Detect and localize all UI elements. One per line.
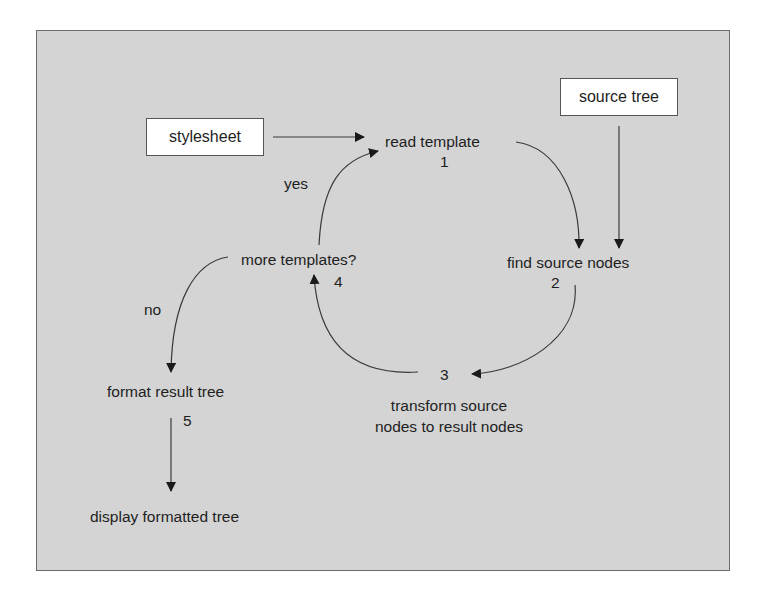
step-transform-line1: transform source	[360, 397, 538, 415]
step-4-number: 4	[334, 273, 343, 291]
source-tree-box: source tree	[560, 78, 678, 116]
diagram-canvas: stylesheet source tree read template 1 f…	[0, 0, 766, 603]
step-read-template-label: read template	[385, 133, 480, 151]
output-display-formatted-tree: display formatted tree	[90, 508, 239, 526]
stylesheet-box: stylesheet	[146, 118, 264, 156]
step-2-number: 2	[551, 274, 560, 292]
edge-label-no: no	[144, 301, 161, 319]
edge-label-yes: yes	[284, 175, 308, 193]
step-transform-line2: nodes to result nodes	[360, 418, 538, 436]
step-5-number: 5	[183, 412, 192, 430]
step-find-source-nodes-label: find source nodes	[507, 254, 629, 272]
step-format-result-tree-label: format result tree	[107, 383, 224, 401]
step-more-templates-label: more templates?	[241, 251, 356, 269]
step-1-number: 1	[440, 153, 449, 171]
step-3-number: 3	[440, 366, 449, 384]
stylesheet-label: stylesheet	[169, 128, 241, 146]
step-transform-label: transform source nodes to result nodes	[360, 397, 538, 436]
source-tree-label: source tree	[579, 88, 659, 106]
